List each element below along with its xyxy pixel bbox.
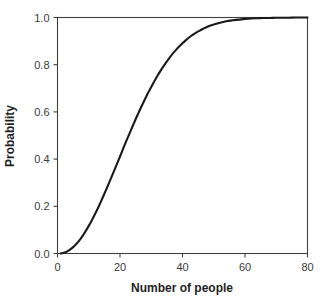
x-tick-label: 60: [239, 261, 251, 273]
y-axis-ticks: [54, 18, 58, 254]
y-tick-label: 0.2: [34, 200, 49, 212]
y-axis-title: Probability: [3, 105, 17, 167]
y-tick-label: 0.4: [34, 153, 49, 165]
x-axis-title: Number of people: [131, 281, 233, 295]
y-tick-label: 1.0: [34, 12, 49, 24]
x-tick-label: 0: [54, 261, 60, 273]
chart-canvas: 0.00.20.40.60.81.0 020406080 Number of p…: [0, 0, 330, 302]
x-tick-label: 40: [176, 261, 188, 273]
x-tick-label: 20: [114, 261, 126, 273]
chart-figure: 0.00.20.40.60.81.0 020406080 Number of p…: [0, 0, 330, 302]
x-tick-label: 80: [301, 261, 313, 273]
y-tick-label: 0.0: [34, 248, 49, 260]
y-axis-tick-labels: 0.00.20.40.60.81.0: [34, 12, 49, 260]
plot-frame: [58, 18, 308, 254]
x-axis-tick-labels: 020406080: [54, 261, 313, 273]
y-tick-label: 0.8: [34, 59, 49, 71]
plot-area-border: [58, 18, 308, 254]
x-axis-ticks: [58, 254, 308, 258]
y-tick-label: 0.6: [34, 106, 49, 118]
